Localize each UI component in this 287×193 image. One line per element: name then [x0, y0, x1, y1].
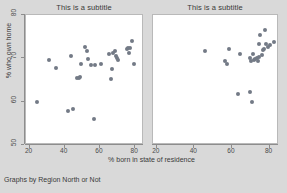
x-tick-label: 80 — [261, 147, 277, 154]
scatter-point — [92, 117, 96, 121]
x-axis-title: % born in state of residence — [25, 156, 278, 163]
panel-subtitle-1: This is a subtitle — [152, 3, 278, 12]
scatter-point — [86, 57, 90, 61]
scatter-point — [35, 100, 39, 104]
panel-subtitle-0: This is a subtitle — [25, 3, 143, 12]
plot-area-1 — [153, 15, 277, 143]
scatter-point — [258, 33, 262, 37]
scatter-panel-not-north — [152, 14, 278, 144]
scatter-point — [79, 62, 83, 66]
x-tick-label: 40 — [185, 147, 201, 154]
x-tick-label: 40 — [56, 147, 72, 154]
scatter-point — [268, 43, 272, 47]
x-tick-label: 20 — [148, 147, 164, 154]
scatter-point — [130, 39, 134, 43]
scatter-point — [110, 67, 114, 71]
scatter-point — [256, 59, 260, 63]
scatter-point — [227, 47, 231, 51]
scatter-point — [203, 49, 207, 53]
chart-figure: 50607080 % who own home This is a subtit… — [0, 0, 287, 193]
scatter-panel-north — [25, 14, 143, 144]
x-tick-label: 80 — [126, 147, 142, 154]
scatter-point — [47, 58, 51, 62]
x-axis-line-1 — [152, 144, 278, 145]
scatter-point — [116, 58, 120, 62]
scatter-point — [251, 52, 255, 56]
scatter-point — [66, 109, 70, 113]
scatter-point — [85, 49, 89, 53]
x-axis-line-0 — [25, 144, 143, 145]
scatter-point — [113, 49, 117, 53]
x-tick-label: 20 — [21, 147, 37, 154]
scatter-point — [54, 66, 58, 70]
scatter-point — [109, 77, 113, 81]
scatter-point — [132, 62, 136, 66]
scatter-point — [257, 42, 261, 46]
scatter-point — [272, 40, 276, 44]
scatter-point — [225, 62, 229, 66]
scatter-point — [69, 54, 73, 58]
scatter-point — [127, 51, 131, 55]
scatter-point — [248, 90, 252, 94]
scatter-point — [99, 62, 103, 66]
scatter-point — [260, 53, 264, 57]
x-tick-label: 60 — [91, 147, 107, 154]
scatter-point — [236, 92, 240, 96]
scatter-point — [71, 107, 75, 111]
scatter-point — [263, 28, 267, 32]
panel-container: This is a subtitle This is a subtitle 20… — [0, 0, 287, 193]
scatter-point — [78, 75, 82, 79]
scatter-point — [93, 63, 97, 67]
scatter-point — [238, 52, 242, 56]
plot-area-0 — [26, 15, 142, 143]
x-tick-label: 60 — [223, 147, 239, 154]
scatter-point — [128, 46, 132, 50]
figure-note: Graphs by Region North or Not — [4, 176, 101, 183]
scatter-point — [89, 63, 93, 67]
scatter-point — [250, 100, 254, 104]
